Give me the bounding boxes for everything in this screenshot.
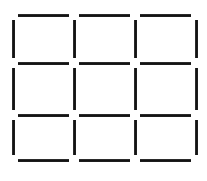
matchstick-vertical[interactable] [73, 68, 76, 110]
matchstick-vertical[interactable] [134, 68, 137, 110]
matchstick-vertical[interactable] [12, 120, 15, 155]
matchstick-vertical[interactable] [73, 20, 76, 58]
matchstick-vertical[interactable] [195, 120, 198, 155]
matchstick-horizontal[interactable] [79, 159, 130, 162]
matchstick-horizontal[interactable] [140, 14, 191, 17]
matchstick-vertical[interactable] [134, 120, 137, 155]
matchstick-horizontal[interactable] [140, 114, 191, 117]
matchstick-vertical[interactable] [12, 20, 15, 58]
matchstick-grid-puzzle [0, 0, 207, 181]
matchstick-horizontal[interactable] [18, 159, 69, 162]
matchstick-vertical[interactable] [73, 120, 76, 155]
matchstick-horizontal[interactable] [79, 14, 130, 17]
matchstick-horizontal[interactable] [18, 114, 69, 117]
matchstick-vertical[interactable] [195, 68, 198, 110]
matchstick-vertical[interactable] [12, 68, 15, 110]
matchstick-vertical[interactable] [195, 20, 198, 58]
matchstick-vertical[interactable] [134, 20, 137, 58]
matchstick-horizontal[interactable] [18, 14, 69, 17]
matchstick-horizontal[interactable] [79, 62, 130, 65]
matchstick-horizontal[interactable] [140, 159, 191, 162]
matchstick-horizontal[interactable] [18, 62, 69, 65]
matchstick-horizontal[interactable] [140, 62, 191, 65]
matchstick-horizontal[interactable] [79, 114, 130, 117]
